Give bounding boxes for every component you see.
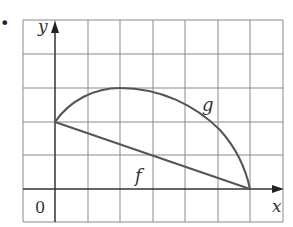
y-axis-label: y: [37, 16, 48, 36]
curve-f-label: f: [133, 165, 145, 186]
x-axis-arrow-icon: [272, 185, 284, 193]
x-axis-label: x: [272, 196, 282, 216]
curve-g-label: g: [202, 94, 214, 115]
origin-label: 0: [35, 198, 45, 217]
graph-diagram: y x 0 g f: [0, 0, 293, 227]
grid: [23, 20, 283, 222]
y-axis-arrow-icon: [51, 21, 59, 33]
